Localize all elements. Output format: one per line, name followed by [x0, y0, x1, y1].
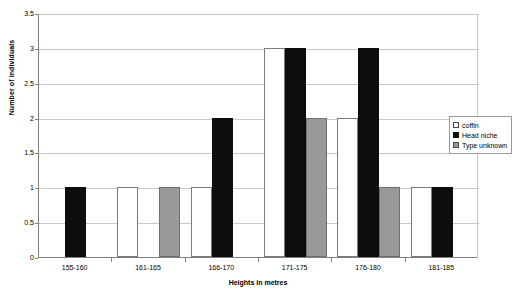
y-tick-mark	[35, 258, 38, 259]
y-tick-label: 0	[4, 254, 34, 261]
y-tick-label: 1.5	[4, 149, 34, 156]
x-tick-mark	[405, 258, 406, 262]
x-tick-label: 171-175	[255, 264, 335, 272]
plot-area	[38, 14, 478, 258]
y-tick-label: 3.5	[4, 10, 34, 17]
chart-legend: coffin Head niche Type unknown	[449, 116, 512, 154]
legend-item-head-niche: Head niche	[453, 130, 507, 140]
x-tick-label: 161-165	[108, 264, 188, 272]
x-tick-mark	[111, 258, 112, 262]
bar-coffin	[264, 48, 285, 257]
bar-unknown	[159, 187, 180, 257]
x-tick-label: 181-185	[401, 264, 481, 272]
y-tick-label: 0.5	[4, 219, 34, 226]
bar-unknown	[306, 118, 327, 257]
y-tick-mark	[35, 223, 38, 224]
x-tick-label: 176-180	[328, 264, 408, 272]
x-tick-label: 155-160	[35, 264, 115, 272]
x-axis-title: Heights in metres	[38, 279, 478, 286]
legend-item-type-unknown: Type unknown	[453, 140, 507, 150]
bar-unknown	[379, 187, 400, 257]
y-tick-mark	[35, 153, 38, 154]
bar-coffin	[191, 187, 212, 257]
bar-coffin	[337, 118, 358, 257]
y-tick-label: 3	[4, 45, 34, 52]
bar-head	[212, 118, 233, 257]
x-tick-label: 166-170	[181, 264, 261, 272]
bar-head	[358, 48, 379, 257]
legend-item-coffin: coffin	[453, 120, 507, 130]
bar-head	[285, 48, 306, 257]
x-tick-mark	[331, 258, 332, 262]
x-tick-mark	[185, 258, 186, 262]
bar-group	[112, 13, 185, 257]
legend-swatch-coffin-icon	[453, 122, 459, 128]
bar-coffin	[117, 187, 138, 257]
bar-group	[259, 13, 332, 257]
legend-label-coffin: coffin	[462, 122, 479, 129]
y-tick-label: 2.5	[4, 80, 34, 87]
y-tick-mark	[35, 49, 38, 50]
bar-coffin	[411, 187, 432, 257]
legend-swatch-head-niche-icon	[453, 132, 459, 138]
y-tick-mark	[35, 188, 38, 189]
bar-group	[39, 13, 112, 257]
legend-swatch-type-unknown-icon	[453, 142, 459, 148]
y-tick-mark	[35, 84, 38, 85]
bar-head	[432, 187, 453, 257]
y-tick-mark	[35, 119, 38, 120]
legend-label-head-niche: Head niche	[462, 132, 497, 139]
bar-group	[332, 13, 405, 257]
y-tick-mark	[35, 14, 38, 15]
bar-head	[65, 187, 86, 257]
x-tick-mark	[258, 258, 259, 262]
legend-label-type-unknown: Type unknown	[462, 142, 507, 149]
bar-chart: Number of individuals 00.511.522.533.5 1…	[0, 0, 524, 294]
y-tick-label: 1	[4, 184, 34, 191]
y-tick-label: 2	[4, 115, 34, 122]
bar-group	[186, 13, 259, 257]
